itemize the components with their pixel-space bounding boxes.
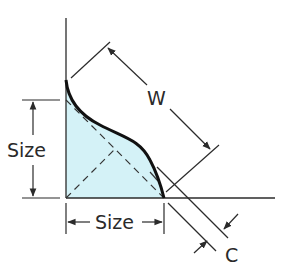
w-ext-top — [71, 42, 110, 78]
c-label: C — [225, 246, 238, 265]
c-line-inner — [168, 203, 216, 251]
c-arrow-bottom — [194, 241, 207, 253]
w-arrow-down — [170, 109, 210, 149]
size-left-label: Size — [7, 141, 46, 160]
w-label: W — [147, 89, 166, 108]
c-arrow-top — [224, 214, 238, 229]
fillet-weld-diagram — [0, 0, 290, 272]
w-ext-bottom — [166, 145, 219, 192]
w-arrow-up — [108, 48, 147, 85]
size-bottom-label: Size — [95, 213, 134, 232]
